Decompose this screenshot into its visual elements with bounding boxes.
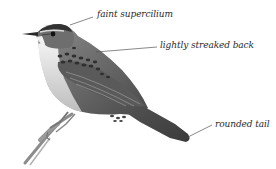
- leader-line-back: [96, 47, 157, 52]
- annotation-faint-supercilium: faint supercilium: [97, 10, 173, 19]
- eye: [51, 32, 56, 37]
- annotation-lightly-streaked-back: lightly streaked back: [160, 41, 254, 50]
- leader-line-tail: [188, 125, 212, 137]
- bird-illustration-figure: faint supercilium lightly streaked back …: [0, 0, 276, 169]
- beak: [22, 32, 38, 36]
- annotation-rounded-tail: rounded tail: [215, 120, 270, 129]
- bird-illustration: [0, 0, 276, 169]
- undertail-streaks: [110, 115, 126, 122]
- leader-line-supercilium: [70, 17, 93, 25]
